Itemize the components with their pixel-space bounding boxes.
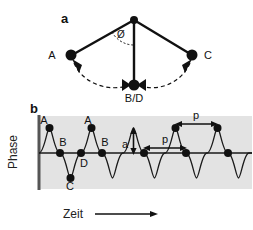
bob-a [66,50,77,61]
wave-point-b2 [98,149,106,157]
swing-arc-left [74,63,128,88]
y-axis-title: Phase [6,135,20,169]
period1-start-point [140,149,148,157]
figure-svg: a Ø [0,0,253,230]
panel-a-group: a Ø [48,11,212,104]
arrowhead-to-c [182,59,192,73]
period1-label: p [162,133,168,145]
bob-bd [129,80,140,91]
wave-label-b1: B [59,136,66,148]
wave-point-extra [224,149,232,157]
amplitude-label: a [122,138,129,150]
period2-label: p [193,109,199,121]
wave-label-a2: A [84,114,92,126]
panel-b-letter: b [30,101,38,116]
label-a: A [48,49,56,61]
figure-container: a Ø [0,0,253,230]
swing-arc-right [140,63,190,88]
panel-b-group: b A B C D A B [6,101,252,221]
arrowhead-to-a [72,59,82,73]
panel-a-letter: a [61,11,69,26]
angle-label: Ø [117,29,125,40]
label-bd: B/D [125,92,143,104]
x-axis-title: Zeit [63,207,84,221]
label-c: C [204,49,212,61]
wave-point-d1 [77,149,85,157]
wave-label-a1: A [40,114,48,126]
wave-label-b2: B [101,136,108,148]
wave-label-d1: D [80,157,88,169]
wave-label-c1: C [66,180,74,192]
wave-point-b1 [56,149,64,157]
rod-to-c [134,20,192,55]
bob-c [187,50,198,61]
x-axis-arrowhead [150,211,158,217]
period1-end-point [182,149,190,157]
